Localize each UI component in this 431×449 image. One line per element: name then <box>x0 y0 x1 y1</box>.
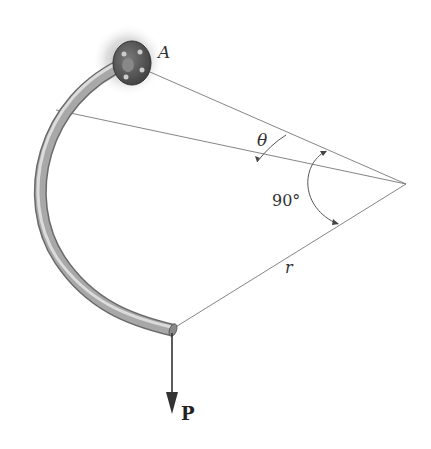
construction-lines <box>56 72 406 328</box>
support-label-A: A <box>158 42 170 62</box>
ninety-arc <box>308 151 338 224</box>
flange <box>113 41 151 85</box>
load-arrow <box>166 333 178 414</box>
theta-arrowhead <box>255 156 260 162</box>
arc-arrowheads <box>255 151 339 225</box>
radius-line-theta <box>56 110 406 184</box>
bolt <box>138 50 143 55</box>
bolt <box>124 75 129 80</box>
ninety-arrowhead-top <box>320 151 327 156</box>
bolt <box>140 68 145 73</box>
curved-rod-diagram <box>0 0 431 449</box>
ninety-arrowhead-bottom <box>332 219 339 225</box>
radius-label: r <box>285 258 293 277</box>
force-label-P: P <box>181 403 195 424</box>
angle-arcs <box>257 135 338 224</box>
curved-rod <box>38 59 172 330</box>
bolt <box>122 52 127 57</box>
rod-socket <box>122 58 134 72</box>
ninety-degree-label: 90° <box>272 191 300 210</box>
radius-line-A <box>150 72 406 184</box>
theta-label: θ <box>257 130 267 150</box>
